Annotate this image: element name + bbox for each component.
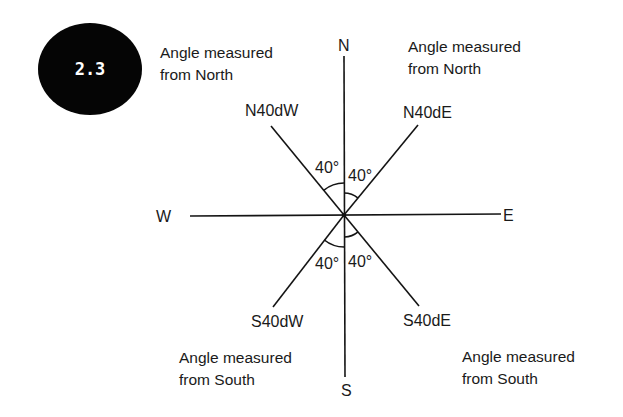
cardinal-north: N	[338, 37, 350, 55]
caption-line: from South	[179, 369, 292, 391]
bearing-label-sw: S40dW	[251, 313, 303, 331]
bearing-label-nw: N40dW	[245, 102, 298, 120]
caption-line: from North	[408, 58, 521, 80]
bearing-label-se: S40dE	[403, 312, 451, 330]
angle-label-se: 40°	[348, 253, 372, 271]
angle-arc-nw	[324, 183, 344, 190]
angle-arc-se	[345, 232, 359, 237]
angle-label-nw: 40°	[315, 159, 339, 177]
caption-bottom-right: Angle measured from South	[462, 346, 575, 390]
center-point	[342, 213, 346, 217]
caption-top-right: Angle measured from North	[408, 36, 521, 80]
caption-line: Angle measured	[408, 36, 521, 58]
bearing-diagram: 2.3 N S W E N40dW N40dE S40dW S4	[0, 0, 623, 417]
caption-line: Angle measured	[160, 42, 273, 64]
bearing-label-ne: N40dE	[403, 104, 452, 122]
caption-bottom-left: Angle measured from South	[179, 347, 292, 391]
angle-arc-ne	[344, 193, 358, 198]
caption-top-left: Angle measured from North	[160, 42, 273, 86]
cardinal-south: S	[341, 382, 352, 400]
caption-line: from South	[462, 368, 575, 390]
caption-line: from North	[160, 64, 273, 86]
angle-arc-sw	[324, 240, 344, 247]
cardinal-east: E	[503, 207, 514, 225]
cardinal-west: W	[156, 208, 171, 226]
caption-line: Angle measured	[179, 347, 292, 369]
caption-line: Angle measured	[462, 346, 575, 368]
angle-label-sw: 40°	[315, 255, 339, 273]
angle-label-ne: 40°	[348, 167, 372, 185]
